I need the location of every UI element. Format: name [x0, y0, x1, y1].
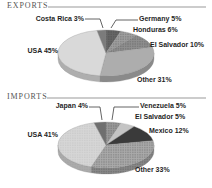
trade-pies-infographic: EXPORTS Costa Rica 3% Germany 5% Hondura…	[0, 0, 212, 188]
label-exports-costa-rica: Costa Rica 3%	[36, 15, 84, 23]
label-exports-other: Other 31%	[137, 76, 172, 84]
label-imports-mexico: Mexico 12%	[149, 127, 189, 135]
label-exports-usa: USA 45%	[28, 47, 58, 55]
exports-pie-slices	[58, 30, 154, 82]
label-imports-usa: USA 41%	[28, 131, 58, 139]
label-exports-el-salvador: El Salvador 10%	[150, 41, 204, 49]
leader-line-japan	[89, 107, 102, 120]
label-imports-other: Other 33%	[135, 166, 170, 174]
label-exports-germany: Germany 5%	[139, 15, 181, 23]
label-exports-honduras: Honduras 6%	[133, 26, 178, 34]
label-imports-venezuela: Venezuela 5%	[140, 102, 186, 110]
leader-line-costa-rica	[85, 19, 103, 28]
label-imports-el-salvador: El Salvador 5%	[135, 113, 185, 121]
label-imports-japan: Japan 4%	[56, 102, 88, 110]
